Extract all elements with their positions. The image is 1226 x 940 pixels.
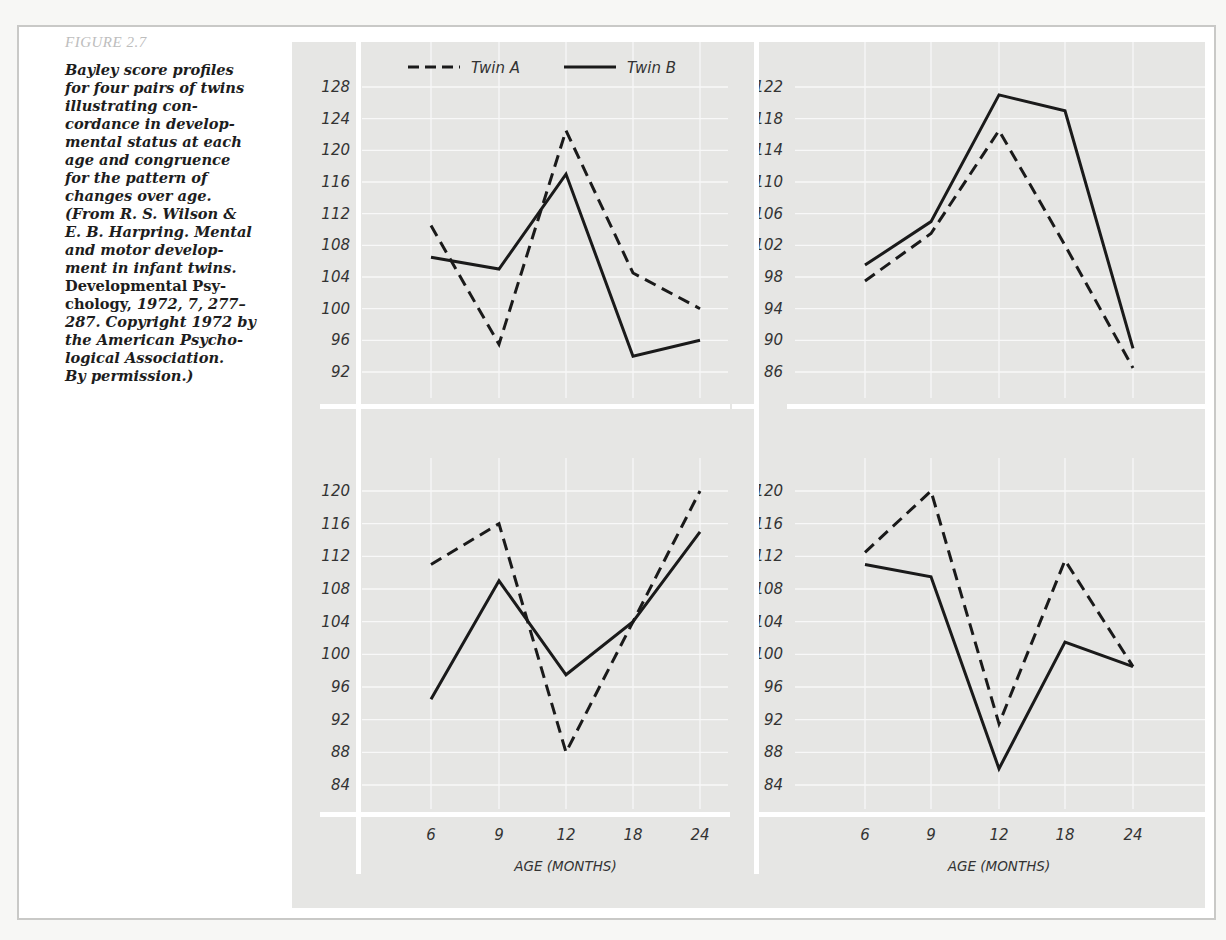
chart-background [292,42,1205,908]
y-tick-label: 128 [321,78,350,96]
y-tick-label: 116 [321,515,350,533]
y-axis-line-left [356,42,361,874]
y-tick-label: 112 [321,547,350,565]
y-tick-label: 92 [331,711,350,729]
y-tick-label: 90 [764,331,783,349]
x-tick-label: 6 [860,826,870,844]
y-tick-label: 94 [764,300,783,318]
divider-horizontal-right [787,404,1205,409]
legend-twin-a-label: Twin A [471,59,520,77]
x-tick-label: 18 [1055,826,1074,844]
y-tick-label: 92 [331,363,350,381]
y-tick-label: 96 [331,331,350,349]
y-tick-label: 104 [321,268,350,286]
divider-horizontal-gap [732,404,754,409]
y-axis-line-right [754,42,759,874]
x-axis-line-right [757,812,1205,817]
y-tick-label: 84 [331,776,350,794]
y-tick-label: 88 [764,743,783,761]
y-tick-label: 112 [321,205,350,223]
y-tick-label: 108 [321,236,350,254]
y-tick-label: 100 [321,300,350,318]
x-tick-label: 18 [623,826,642,844]
x-tick-label: 24 [1123,826,1142,844]
x-axis-title: AGE (MONTHS) [513,858,616,874]
y-tick-label: 96 [331,678,350,696]
y-tick-label: 120 [321,141,350,159]
x-tick-label: 12 [556,826,575,844]
y-tick-label: 100 [321,645,350,663]
y-tick-label: 88 [331,743,350,761]
x-tick-label: 6 [426,826,436,844]
y-tick-label: 108 [321,580,350,598]
x-tick-label: 9 [494,826,504,844]
y-tick-label: 116 [321,173,350,191]
x-axis-title: AGE (MONTHS) [947,858,1050,874]
y-tick-label: 84 [764,776,783,794]
y-tick-label: 86 [764,363,783,381]
y-tick-label: 124 [321,110,350,128]
x-tick-label: 24 [690,826,709,844]
y-tick-label: 92 [764,711,783,729]
y-tick-label: 96 [764,678,783,696]
y-tick-label: 98 [764,268,783,286]
divider-horizontal-left [320,404,730,409]
x-tick-label: 12 [989,826,1008,844]
y-tick-label: 104 [321,613,350,631]
y-tick-label: 120 [321,482,350,500]
twin-bayley-charts: 9296100104108112116120124128869094981021… [0,0,1226,940]
x-tick-label: 9 [926,826,936,844]
legend-twin-b-label: Twin B [627,59,676,77]
x-axis-line-left [320,812,730,817]
